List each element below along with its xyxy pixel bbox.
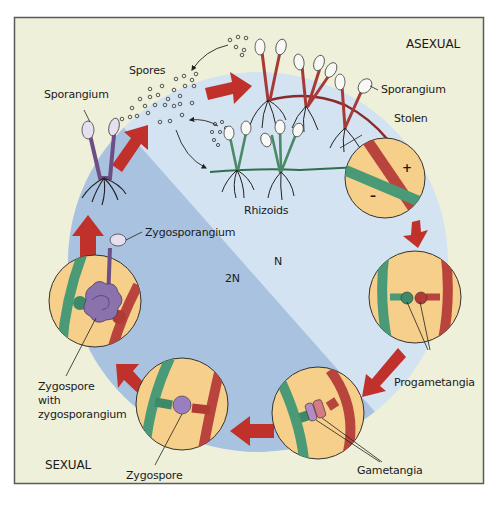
diagram-canvas	[0, 0, 496, 508]
label-sporangium-right: Sporangium	[381, 84, 446, 96]
label-progametangia: Progametangia	[394, 377, 475, 389]
sign-plus: +	[402, 162, 412, 174]
label-spores: Spores	[129, 65, 165, 77]
label-haploid: N	[274, 256, 282, 268]
label-rhizoids: Rhizoids	[244, 205, 288, 217]
label-zygospore-with-line1: Zygospore	[38, 381, 94, 393]
label-diploid: 2N	[225, 273, 240, 285]
label-sporangium-left: Sporangium	[44, 89, 109, 101]
label-asexual: ASEXUAL	[406, 38, 460, 50]
life-cycle-diagram: ASEXUAL SEXUAL N 2N Spores Sporangium Sp…	[0, 0, 496, 508]
label-zygospore-with-line2: with	[38, 395, 61, 407]
label-stolen: Stolen	[394, 113, 428, 125]
label-zygospore: Zygospore	[126, 470, 182, 482]
sign-minus: –	[370, 190, 376, 202]
label-sexual: SEXUAL	[45, 459, 91, 471]
label-zygosporangium: Zygosporangium	[145, 227, 235, 239]
label-zygospore-with-line3: zygosporangium	[38, 409, 127, 421]
label-gametangia: Gametangia	[357, 465, 423, 477]
